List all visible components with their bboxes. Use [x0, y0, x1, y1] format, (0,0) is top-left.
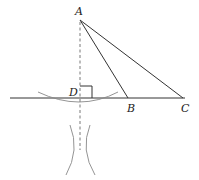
compass-arc-base	[38, 92, 118, 102]
label-b: B	[126, 102, 135, 115]
compass-arc-left	[66, 125, 74, 175]
construction-canvas: A B C D	[0, 0, 199, 180]
label-c: C	[181, 102, 190, 115]
geometry-figure: A B C D	[0, 0, 199, 180]
label-d: D	[68, 86, 78, 99]
right-angle-mark	[80, 86, 92, 98]
compass-arc-right	[86, 125, 95, 175]
label-a: A	[74, 5, 83, 18]
segment-ac	[80, 20, 183, 98]
